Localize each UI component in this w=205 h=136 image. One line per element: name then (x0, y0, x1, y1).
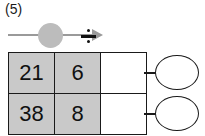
table-row: 21 6 (9, 53, 147, 94)
table-row: 38 8 (9, 94, 147, 135)
exercise-number: (5) (5, 1, 22, 17)
answer-oval-row-2[interactable] (155, 96, 199, 131)
divisor-cell: 8 (55, 94, 101, 135)
dividend-cell: 38 (9, 94, 55, 135)
division-operator-badge (38, 23, 63, 48)
division-dot-bottom-icon (87, 40, 90, 43)
division-bar-icon (81, 35, 96, 38)
operation-arrow (0, 22, 110, 48)
dividend-cell: 21 (9, 53, 55, 94)
answer-oval-row-1[interactable] (155, 55, 199, 90)
quotient-answer-cell[interactable] (101, 94, 147, 135)
quotient-answer-cell[interactable] (101, 53, 147, 94)
division-dot-top-icon (87, 29, 90, 32)
division-worksheet-table: 21 6 38 8 (8, 52, 147, 135)
divisor-cell: 6 (55, 53, 101, 94)
